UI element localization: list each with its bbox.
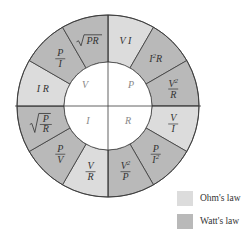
quadrant-r-label: R — [124, 115, 131, 126]
svg-text:PR: PR — [85, 35, 98, 46]
quadrant-i-label: I — [85, 115, 90, 126]
svg-text:I R: I R — [36, 83, 49, 94]
quadrant-p-label: P — [127, 79, 134, 90]
legend-watts-law: Watt's law — [177, 214, 252, 234]
ohms-law-swatch — [177, 191, 193, 206]
svg-text:I: I — [58, 58, 63, 69]
watts-law-label: Watt's law — [200, 214, 239, 229]
svg-text:R: R — [86, 171, 93, 182]
legend-ohms-law: Ohm's law — [177, 191, 252, 211]
svg-text:P: P — [56, 143, 63, 154]
formula-label: I R — [36, 83, 49, 94]
ohms-law-label: Ohm's law — [200, 191, 241, 206]
formula-label: V I — [120, 35, 132, 46]
svg-text:V I: V I — [120, 35, 132, 46]
svg-text:P: P — [121, 171, 128, 182]
svg-text:R: R — [169, 89, 176, 100]
watts-law-swatch — [177, 214, 193, 229]
formula-label: I2R — [148, 52, 162, 64]
svg-text:I2R: I2R — [148, 52, 162, 64]
svg-text:R: R — [42, 123, 49, 134]
svg-text:P: P — [56, 47, 63, 58]
svg-text:I: I — [171, 123, 176, 134]
